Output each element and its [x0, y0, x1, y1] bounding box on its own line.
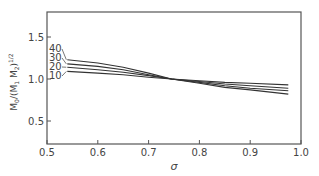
- series-line-20: [67, 67, 288, 88]
- series-label-leader: [62, 49, 66, 60]
- series-label-10: 10: [49, 70, 62, 81]
- x-tick-label: 0.5: [39, 147, 55, 158]
- series-line-10: [67, 71, 288, 85]
- series-lines: [67, 60, 288, 94]
- x-tick-label: 0.6: [90, 147, 106, 158]
- x-axis-title: σ: [171, 160, 179, 173]
- series-labels: 40302010: [49, 43, 66, 81]
- series-label-leader: [62, 71, 66, 76]
- y-tick-label: 0.5: [28, 116, 44, 127]
- x-tick-label: 1.0: [293, 147, 309, 158]
- x-tick-label: 0.7: [141, 147, 157, 158]
- x-axis-ticks: 0.50.60.70.80.91.0: [39, 140, 309, 158]
- y-tick-label: 1.0: [28, 74, 44, 85]
- x-tick-label: 0.9: [242, 147, 258, 158]
- plot-frame: [47, 12, 301, 144]
- x-tick-label: 0.8: [191, 147, 207, 158]
- y-axis-title: M0/(M1 M2)1/2: [7, 53, 20, 111]
- series-line-30: [67, 64, 288, 91]
- y-tick-label: 1.5: [28, 32, 44, 43]
- line-chart: 0.50.60.70.80.91.0 0.51.01.5 40302010 σ …: [0, 0, 319, 176]
